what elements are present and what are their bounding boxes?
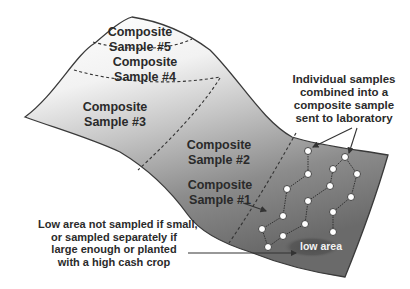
zone-3-line1: Composite <box>80 100 150 115</box>
callout-line-2: combined into a <box>290 86 398 99</box>
low-area-note-line-2: or sampled separately if <box>38 231 190 244</box>
callout-line-4: sent to laboratory <box>290 112 398 125</box>
callout-line-3: composite sample <box>290 99 398 112</box>
zone-4-line1: Composite <box>110 55 180 70</box>
arrow-to-first-sample <box>313 128 352 147</box>
zone-1-line2: Sample #1 <box>184 193 256 208</box>
zone-1-line1: Composite <box>184 178 256 193</box>
zone-label-2: Composite Sample #2 <box>183 138 255 168</box>
zone-2-line1: Composite <box>183 138 255 153</box>
callout-line-1: Individual samples <box>290 73 398 86</box>
zone-5-line1: Composite <box>105 25 175 40</box>
zone-label-1: Composite Sample #1 <box>184 178 256 208</box>
zone-4-line2: Sample #4 <box>110 70 180 85</box>
individual-samples-callout: Individual samples combined into a compo… <box>290 73 398 125</box>
zone-label-4: Composite Sample #4 <box>110 55 180 85</box>
low-area-label: low area <box>300 240 342 252</box>
low-area-note-line-4: with a high cash crop <box>38 256 190 269</box>
zone-3-line2: Sample #3 <box>80 115 150 130</box>
zone-label-3: Composite Sample #3 <box>80 100 150 130</box>
low-area-note: Low area not sampled if small, or sample… <box>38 218 190 268</box>
zone-5-line2: Sample #5 <box>105 40 175 55</box>
low-area-note-line-1: Low area not sampled if small, <box>38 218 190 231</box>
zone-2-line2: Sample #2 <box>183 153 255 168</box>
soil-sampling-diagram: Composite Sample #5 Composite Sample #4 … <box>0 0 410 289</box>
zone-label-5: Composite Sample #5 <box>105 25 175 55</box>
low-area-note-line-3: large enough or planted <box>38 243 190 256</box>
